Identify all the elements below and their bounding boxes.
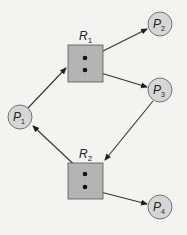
resource-r1-box: [68, 45, 103, 82]
instance-dot: [83, 185, 88, 190]
process-p1: P1: [8, 105, 32, 129]
process-p2: P2: [148, 12, 172, 36]
instance-dot: [83, 68, 88, 73]
resource-r2-label: R2: [79, 147, 93, 163]
instance-dot: [83, 172, 88, 177]
edge-p3-to-r2: [105, 101, 153, 160]
process-p4: P4: [148, 195, 172, 219]
edge-p1-to-r1: [28, 68, 66, 108]
resource-r1-label: R1: [79, 29, 93, 45]
instance-dot: [83, 56, 88, 61]
resource-r2: R2: [68, 147, 103, 199]
resource-r1: R1: [68, 29, 103, 82]
resource-allocation-graph: R1 R2 P1 P2 P3 P4: [0, 0, 187, 235]
process-p3: P3: [148, 78, 172, 102]
resource-r2-box: [68, 163, 103, 199]
